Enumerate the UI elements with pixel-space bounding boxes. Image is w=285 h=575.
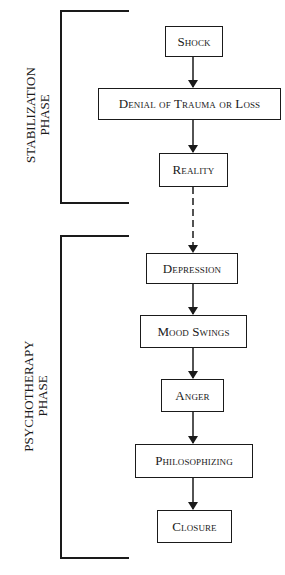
stage-label: Denial of Trauma or Loss <box>119 96 260 112</box>
stage-label: Depression <box>163 261 221 277</box>
stage-closure: Closure <box>157 510 232 543</box>
stage-label: Anger <box>175 388 209 404</box>
stage-label: Reality <box>173 162 215 178</box>
stage-label: Philosophizing <box>155 453 233 469</box>
stage-label: Closure <box>172 519 216 535</box>
stage-reality: Reality <box>159 153 228 187</box>
stage-philosophizing: Philosophizing <box>135 444 253 478</box>
stage-label: Shock <box>177 34 210 50</box>
stage-label: Mood Swings <box>157 324 229 340</box>
stage-depression: Depression <box>146 253 238 284</box>
stage-mood-swings: Mood Swings <box>140 315 247 348</box>
stage-denial: Denial of Trauma or Loss <box>98 88 281 120</box>
stage-anger: Anger <box>161 379 224 412</box>
connector-layer <box>0 0 285 575</box>
stage-shock: Shock <box>165 26 223 57</box>
